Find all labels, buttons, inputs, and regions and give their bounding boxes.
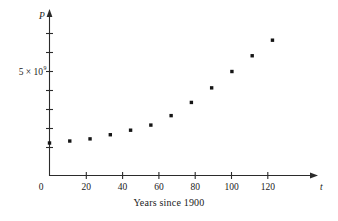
data-point [88, 137, 91, 140]
data-point [210, 86, 213, 89]
plot-canvas: 0 20 40 60 80 100 120 5 × 10 9 P t [0, 0, 338, 221]
data-point [129, 129, 132, 132]
data-point [250, 54, 253, 57]
x-tick-label-60: 60 [154, 182, 164, 192]
data-point [271, 38, 274, 41]
x-tick-label-120: 120 [261, 182, 276, 192]
x-tick-label-100: 100 [224, 182, 239, 192]
data-point [109, 133, 112, 136]
y-axis-label: P [38, 11, 45, 21]
data-point [48, 141, 51, 144]
figure-caption: Years since 1900 [0, 197, 338, 208]
x-tick-label-0: 0 [39, 182, 44, 192]
y-tick-label-5e9: 5 × 10 [19, 67, 44, 77]
data-point [68, 139, 71, 142]
x-tick-label-80: 80 [190, 182, 200, 192]
data-point [230, 70, 233, 73]
data-point [169, 114, 172, 117]
x-axis-label: t [320, 182, 323, 192]
y-tick-label-exponent: 9 [44, 65, 47, 71]
data-point [149, 123, 152, 126]
x-tick-label-20: 20 [82, 182, 92, 192]
data-point [190, 101, 193, 104]
x-axis-arrow-icon [310, 173, 318, 179]
data-points-group [48, 38, 274, 144]
y-axis-arrow-icon [47, 9, 53, 17]
x-tick-label-40: 40 [118, 182, 128, 192]
scatter-plot-figure: 0 20 40 60 80 100 120 5 × 10 9 P t Years… [0, 0, 338, 221]
